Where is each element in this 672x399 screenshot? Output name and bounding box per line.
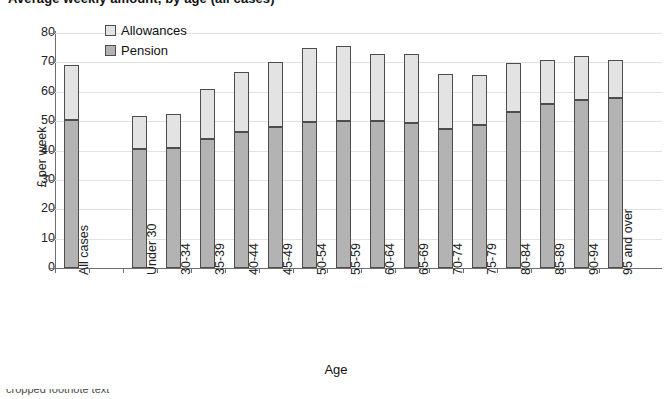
x-category-label: 45-49 [281,243,295,275]
x-category-label: 95 and over [621,209,635,275]
chart-title-strip: Average weekly amount, by age (all cases… [0,0,672,13]
y-tick-label: 70 [9,55,55,67]
bar-segment-allowances[interactable] [438,74,453,129]
stacked-bar[interactable] [234,72,249,268]
bar-segment-allowances[interactable] [472,75,487,125]
y-tick-label: 10 [9,232,55,244]
y-tick-label: 0 [9,261,55,273]
x-category-label: All cases [77,225,91,275]
bar-segment-allowances[interactable] [574,56,589,100]
bar-segment-allowances[interactable] [268,62,283,128]
x-tick-mark [55,268,56,273]
stacked-bar[interactable] [506,63,521,268]
x-tick-mark [123,268,124,273]
x-category-label: 50-54 [315,243,329,275]
bar-slot [191,33,225,268]
stacked-bar[interactable] [336,46,351,268]
bar-slot [395,33,429,268]
bar-segment-allowances[interactable] [302,48,317,122]
bar-slot [463,33,497,268]
bar-slot [225,33,259,268]
bar-slot [293,33,327,268]
x-category-label: 55-59 [349,243,363,275]
bar-segment-allowances[interactable] [540,60,555,104]
x-category-label: 90-94 [587,243,601,275]
y-tick-label: 80 [9,26,55,38]
bar-slot [429,33,463,268]
bar-segment-allowances[interactable] [336,46,351,121]
bar-segment-allowances[interactable] [608,60,623,98]
bar-segment-allowances[interactable] [64,65,79,120]
stacked-bar[interactable] [574,56,589,268]
stacked-bar[interactable] [370,54,385,268]
caption-text: cropped footnote text [6,389,109,395]
stacked-bar[interactable] [438,74,453,268]
x-category-label: 85-89 [553,243,567,275]
bar-segment-allowances[interactable] [132,116,147,148]
caption-strip: cropped footnote text [0,389,672,399]
stacked-bar[interactable] [472,75,487,268]
x-category-label: 35-39 [213,243,227,275]
bar-slot [259,33,293,268]
x-axis-title: Age [0,362,672,377]
stacked-bar[interactable] [302,48,317,268]
bar-segment-allowances[interactable] [234,72,249,133]
chart-container: Average weekly amount, by age (all cases… [0,0,672,399]
x-category-label: 60-64 [383,243,397,275]
x-category-label: 70-74 [451,243,465,275]
stacked-bar[interactable] [200,89,215,268]
bar-segment-allowances[interactable] [200,89,215,140]
bar-slot [565,33,599,268]
x-category-label: Under 30 [145,224,159,275]
bar-segment-allowances[interactable] [370,54,385,121]
bar-slot [327,33,361,268]
bar-segment-allowances[interactable] [166,114,181,148]
x-category-label: 40-44 [247,243,261,275]
y-tick-label: 60 [9,85,55,97]
x-category-label: 30-34 [179,243,193,275]
bar-slot [157,33,191,268]
stacked-bar[interactable] [268,62,283,269]
bar-slot [531,33,565,268]
stacked-bar[interactable] [404,54,419,268]
x-category-label: 65-69 [417,243,431,275]
y-axis-title: £ per week [35,97,49,217]
stacked-bar[interactable] [540,60,555,268]
x-category-label: 80-84 [519,243,533,275]
x-category-label: 75-79 [485,243,499,275]
bar-slot [361,33,395,268]
bar-slot [497,33,531,268]
bar-segment-allowances[interactable] [404,54,419,123]
bar-segment-allowances[interactable] [506,63,521,112]
